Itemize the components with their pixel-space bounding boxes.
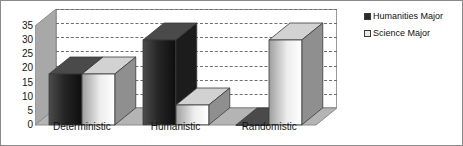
- legend-item-humanities-major: Humanities Major: [364, 11, 460, 21]
- y-axis: 05101520253035: [1, 1, 33, 117]
- x-axis-category-labels: DeterministicHumanisticRandomistic: [35, 121, 337, 137]
- legend-label-humanities-major: Humanities Major: [373, 11, 443, 21]
- bar-deterministic-science-major: [82, 57, 136, 125]
- y-tick-label: 15: [1, 78, 33, 88]
- plot-area: [35, 9, 337, 117]
- y-tick-label: 25: [1, 49, 33, 59]
- y-tick-label: 10: [1, 92, 33, 102]
- y-tick-label: 35: [1, 21, 33, 31]
- x-tick-label-randomistic: Randomistic: [222, 121, 316, 133]
- legend-swatch-icon-humanities-major: [364, 13, 371, 20]
- y-tick-label: 30: [1, 35, 33, 45]
- y-tick-label: 5: [1, 106, 33, 116]
- x-tick-label-deterministic: Deterministic: [35, 121, 129, 133]
- x-tick-label-humanistic: Humanistic: [129, 121, 223, 133]
- y-tick-label: 0: [1, 120, 33, 130]
- legend-swatch-icon-science-major: [364, 30, 371, 37]
- chart-container: 05101520253035 DeterministicHumanisticRa…: [0, 0, 463, 146]
- y-tick-label: 20: [1, 63, 33, 73]
- bars-layer: [35, 9, 337, 126]
- bar-humanistic-science-major: [176, 88, 230, 125]
- legend-item-science-major: Science Major: [364, 28, 460, 38]
- legend-label-science-major: Science Major: [373, 28, 430, 38]
- bar-randomistic-science-major: [269, 23, 323, 125]
- legend: Humanities Major Science Major: [364, 11, 460, 45]
